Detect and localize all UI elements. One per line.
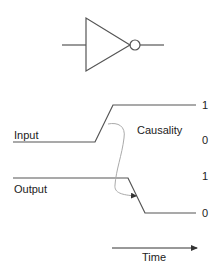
input-high-label: 1 [202, 99, 208, 111]
timing-diagram: Input Output Causality 1 0 1 0 Time [0, 0, 223, 276]
output-low-label: 0 [202, 207, 208, 219]
input-label: Input [14, 129, 38, 141]
inverter-symbol [62, 18, 164, 71]
causality-label: Causality [137, 124, 183, 136]
output-label: Output [14, 183, 47, 195]
time-label: Time [142, 251, 166, 263]
input-low-label: 0 [202, 134, 208, 146]
inversion-bubble [130, 40, 140, 50]
output-high-label: 1 [202, 170, 208, 182]
gate-triangle [86, 18, 130, 71]
